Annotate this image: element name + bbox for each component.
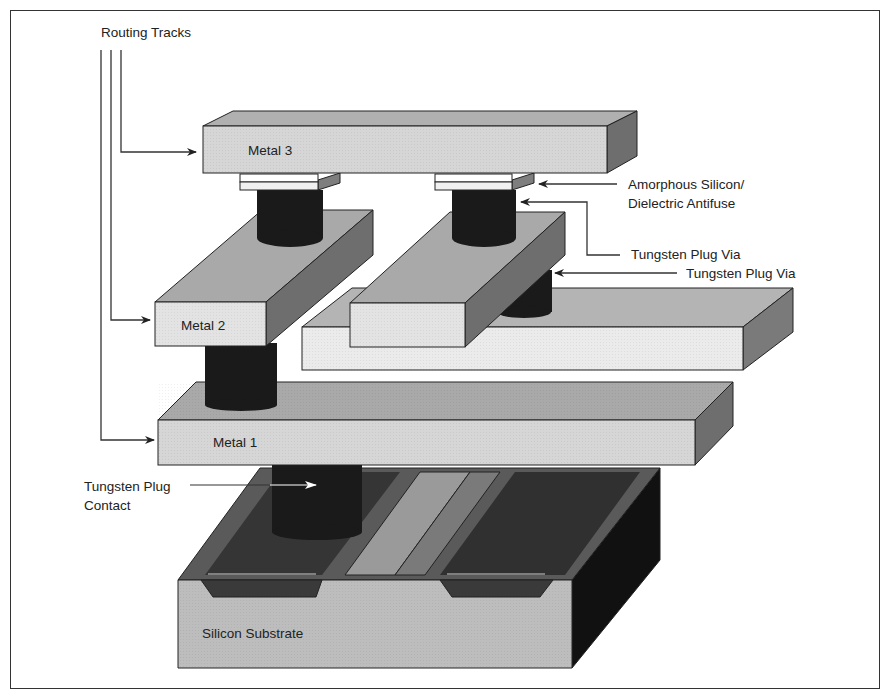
- tungsten-plug-contact: [272, 462, 362, 540]
- arrow-to-metal-2: [111, 50, 150, 320]
- tungsten-plug-via-m1-m2: [205, 343, 277, 411]
- tungsten-plug-via-upper-right: [452, 190, 516, 247]
- arrow-to-metal-3: [121, 50, 196, 152]
- antifuse-label-line1: Amorphous Silicon/: [628, 177, 745, 192]
- via-upper-label: Tungsten Plug Via: [631, 247, 741, 262]
- antifuse-right: [435, 173, 534, 190]
- contact-label-line2: Contact: [84, 498, 131, 513]
- silicon-substrate: Silicon Substrate: [178, 468, 660, 668]
- contact-label-line1: Tungsten Plug: [84, 479, 171, 494]
- antifuse-callout: Amorphous Silicon/ Dielectric Antifuse: [539, 177, 745, 211]
- tungsten-plug-via-upper-left: [257, 190, 323, 247]
- metal-2-label: Metal 2: [181, 318, 225, 333]
- metal-3-track: Metal 3: [203, 111, 637, 173]
- metal-1-label: Metal 1: [213, 435, 257, 450]
- antifuse-structure-diagram: Silicon Substrate Metal 1: [0, 0, 891, 698]
- substrate-label: Silicon Substrate: [202, 626, 303, 641]
- metal-3-label: Metal 3: [248, 143, 292, 158]
- routing-tracks-callout: Routing Tracks: [101, 25, 196, 440]
- antifuse-left: [240, 173, 340, 190]
- antifuse-label-line2: Dielectric Antifuse: [628, 196, 735, 211]
- routing-tracks-label: Routing Tracks: [101, 25, 191, 40]
- via-lower-callout: Tungsten Plug Via: [555, 266, 796, 281]
- arrow-to-metal-1: [101, 50, 154, 440]
- via-lower-label: Tungsten Plug Via: [686, 266, 796, 281]
